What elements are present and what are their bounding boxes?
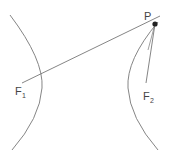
segment-p-f1 xyxy=(22,16,160,83)
label-p: P xyxy=(144,10,151,22)
segment-p-f2 xyxy=(146,24,155,83)
hyperbola-diagram: P F 1 F 2 xyxy=(0,0,170,155)
point-p xyxy=(152,21,157,26)
label-f2-subscript: 2 xyxy=(150,97,154,104)
label-f2: F xyxy=(143,90,150,102)
label-f1: F xyxy=(15,85,22,97)
left-hyperbola-branch xyxy=(10,15,42,150)
label-f1-subscript: 1 xyxy=(22,92,26,99)
right-hyperbola-branch xyxy=(128,22,158,150)
